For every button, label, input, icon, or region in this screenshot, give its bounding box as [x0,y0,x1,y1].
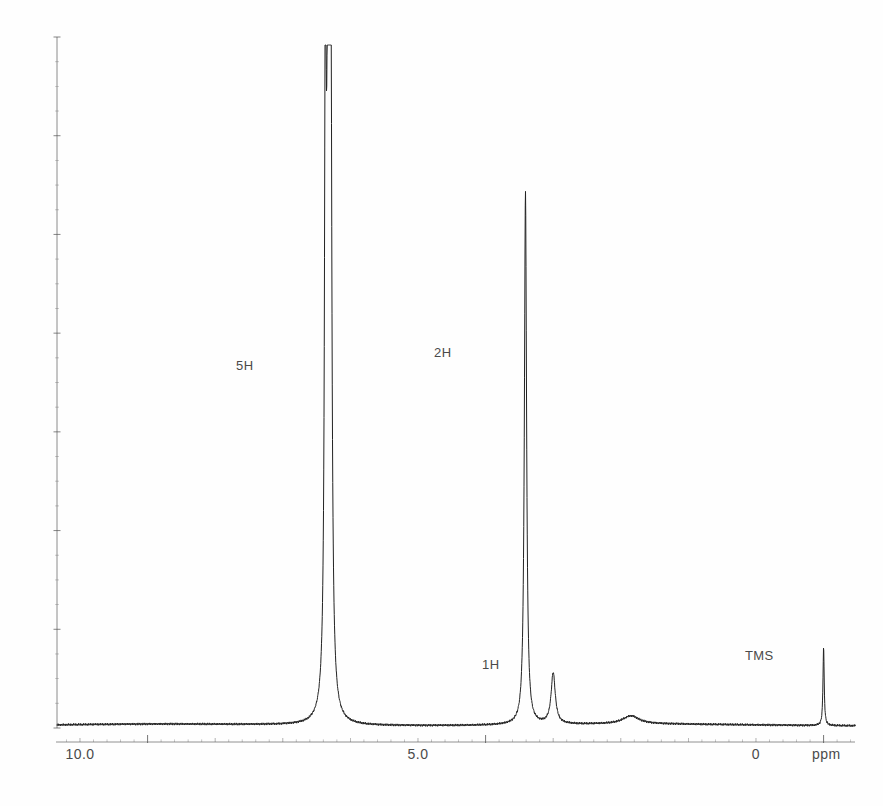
axis-unit-label-ppm: ppm [812,746,841,762]
peak-label-tms: TMS [745,648,774,663]
intensity-axis [54,37,61,728]
axis-tick-label-0: 0 [752,746,760,762]
spectrum-plot-canvas [0,0,883,806]
peak-label-1h: 1H [482,657,499,672]
nmr-spectrum-figure: 5H 2H 1H TMS 10.0 5.0 0 ppm [0,0,883,806]
peak-label-5h: 5H [236,358,253,373]
axis-tick-label-10: 10.0 [65,746,94,762]
peak-label-2h: 2H [434,345,451,360]
axis-tick-label-5: 5.0 [408,746,429,762]
spectrum-trace [57,45,855,727]
ppm-axis-ticks [56,735,855,743]
